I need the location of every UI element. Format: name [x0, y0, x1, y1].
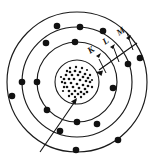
electron[interactable]: [73, 147, 80, 154]
electron[interactable]: [44, 107, 51, 114]
shell-callout-line: [99, 43, 137, 70]
electron[interactable]: [74, 119, 81, 126]
bohr-model-svg: K L M: [0, 0, 153, 160]
electron[interactable]: [100, 28, 107, 35]
shell-label-m: M: [114, 24, 128, 38]
electron[interactable]: [9, 93, 16, 100]
nucleus[interactable]: [55, 60, 99, 104]
electron[interactable]: [125, 61, 132, 68]
shell-label-k: K: [85, 43, 97, 56]
electron[interactable]: [137, 55, 144, 62]
electron[interactable]: [34, 79, 41, 86]
electron[interactable]: [110, 85, 117, 92]
electron[interactable]: [43, 40, 50, 47]
electron[interactable]: [19, 79, 26, 86]
electron[interactable]: [94, 121, 101, 128]
electron[interactable]: [77, 24, 84, 31]
shell-label-k-flick: [96, 53, 101, 58]
electron[interactable]: [54, 23, 61, 30]
atom-diagram-canvas: K L M: [0, 0, 153, 160]
electron[interactable]: [115, 137, 122, 144]
electron[interactable]: [72, 39, 79, 46]
electron[interactable]: [57, 128, 64, 135]
